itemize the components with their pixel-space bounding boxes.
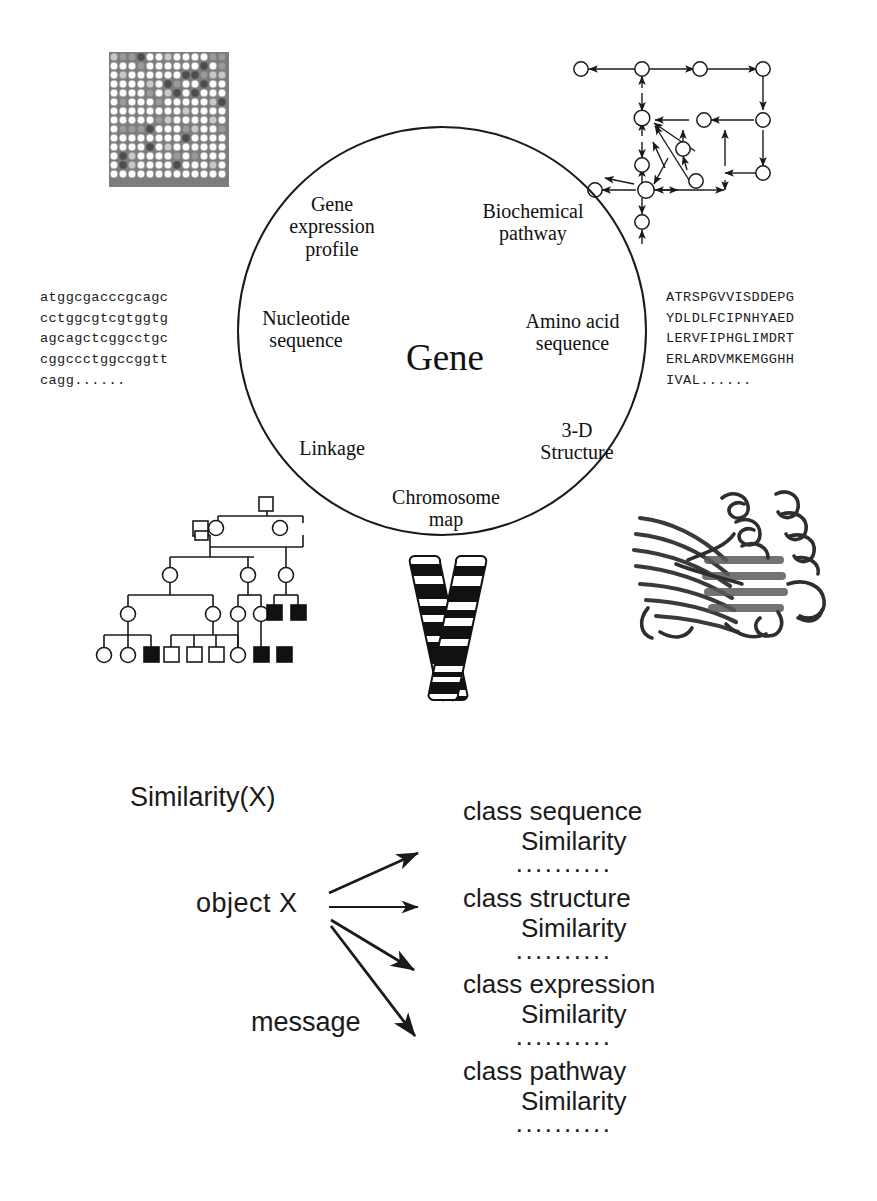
class-separator-dots: ·········· (463, 943, 631, 970)
pedigree-chart (58, 495, 348, 685)
class-similarity: Similarity (463, 914, 631, 944)
chromosome-ideogram-svg (393, 552, 503, 707)
object-x-label: object X (196, 888, 298, 919)
class-name: class sequence (463, 797, 642, 827)
protein-ribbon (630, 488, 875, 673)
class-group-sequence: class sequence Similarity ·········· (463, 797, 642, 884)
amino-acid-sequence-text: ATRSPGVVISDDEPG YDLDLFCIPNHYAED LERVFIPH… (666, 288, 794, 391)
pedigree-chart-svg (58, 495, 348, 685)
dispatch-arrows (320, 790, 480, 1070)
class-separator-dots: ·········· (463, 1116, 626, 1143)
gene-center-label: Gene (390, 339, 500, 376)
label-biochemical-pathway: Biochemical pathway (453, 200, 613, 245)
nucleotide-sequence-text: atggcgacccgcagc cctggcgtcgtggtg agcagctc… (40, 288, 168, 391)
label-nucleotide-sequence: Nucleotide sequence (236, 307, 376, 352)
microarray-grid (109, 52, 229, 187)
chromosome-ideogram (393, 552, 503, 707)
label-amino-acid-sequence: Amino acid sequence (500, 310, 645, 355)
microarray-grid-svg (109, 52, 229, 187)
label-3d-structure: 3-D Structure (522, 419, 632, 464)
class-name: class expression (463, 970, 655, 1000)
class-group-pathway: class pathway Similarity ·········· (463, 1057, 626, 1144)
protein-ribbon-svg (630, 488, 875, 673)
label-linkage: Linkage (272, 437, 392, 459)
class-name: class pathway (463, 1057, 626, 1087)
label-gene-expression-profile: Gene expression profile (262, 193, 402, 260)
class-group-expression: class expression Similarity ·········· (463, 970, 655, 1057)
class-similarity: Similarity (463, 1000, 655, 1030)
figure-root: Gene Gene expression profile Biochemical… (0, 0, 877, 1201)
label-chromosome-map: Chromosome map (366, 486, 526, 531)
class-separator-dots: ·········· (463, 856, 642, 883)
similarity-title: Similarity(X) (130, 782, 276, 813)
class-similarity: Similarity (463, 1087, 626, 1117)
class-similarity: Similarity (463, 827, 642, 857)
class-name: class structure (463, 884, 631, 914)
class-separator-dots: ·········· (463, 1029, 655, 1056)
class-group-structure: class structure Similarity ·········· (463, 884, 631, 971)
dispatch-arrows-svg (320, 790, 480, 1070)
